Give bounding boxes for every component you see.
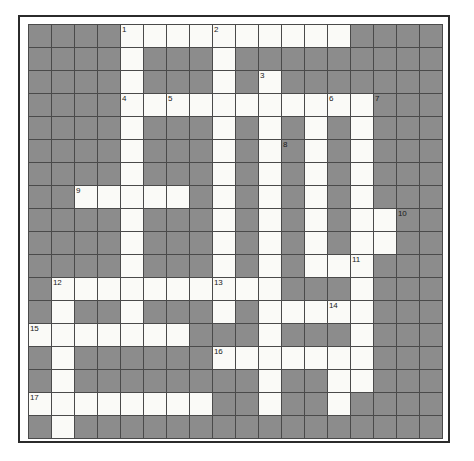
crossword-cell-open[interactable] [351,163,374,186]
crossword-cell-open[interactable] [305,232,328,255]
crossword-cell-open[interactable]: 2 [213,25,236,48]
crossword-cell-open[interactable] [213,163,236,186]
crossword-cell-open[interactable] [52,416,75,439]
crossword-cell-open[interactable] [305,140,328,163]
crossword-cell-open[interactable] [305,347,328,370]
crossword-cell-open[interactable] [98,324,121,347]
crossword-cell-open[interactable] [121,301,144,324]
crossword-cell-open[interactable] [259,232,282,255]
crossword-cell-open[interactable] [213,301,236,324]
crossword-cell-open[interactable] [144,393,167,416]
crossword-cell-open[interactable] [259,25,282,48]
crossword-cell-open[interactable] [121,140,144,163]
crossword-cell-open[interactable] [351,117,374,140]
crossword-cell-open[interactable] [144,186,167,209]
crossword-cell-open[interactable] [374,209,397,232]
crossword-cell-open[interactable]: 9 [75,186,98,209]
crossword-cell-open[interactable] [259,370,282,393]
crossword-cell-open[interactable] [305,163,328,186]
crossword-cell-open[interactable] [351,140,374,163]
crossword-cell-open[interactable] [259,163,282,186]
crossword-cell-open[interactable] [121,255,144,278]
crossword-cell-open[interactable] [305,25,328,48]
crossword-cell-open[interactable] [98,393,121,416]
crossword-cell-open[interactable] [259,209,282,232]
crossword-cell-open[interactable] [121,117,144,140]
crossword-cell-open[interactable]: 14 [328,301,351,324]
crossword-cell-open[interactable] [259,117,282,140]
crossword-cell-open[interactable] [144,94,167,117]
crossword-cell-open[interactable] [328,370,351,393]
crossword-cell-open[interactable] [351,186,374,209]
crossword-cell-open[interactable]: 11 [351,255,374,278]
crossword-cell-open[interactable] [305,94,328,117]
crossword-cell-open[interactable]: 16 [213,347,236,370]
crossword-cell-open[interactable] [213,232,236,255]
crossword-cell-open[interactable] [351,347,374,370]
crossword-cell-open[interactable] [121,71,144,94]
crossword-cell-open[interactable] [305,255,328,278]
crossword-cell-open[interactable] [98,186,121,209]
crossword-cell-open[interactable] [282,301,305,324]
crossword-cell-open[interactable] [259,255,282,278]
crossword-cell-open[interactable] [259,301,282,324]
crossword-cell-open[interactable]: 17 [29,393,52,416]
crossword-cell-open[interactable] [351,370,374,393]
crossword-cell-open[interactable] [328,25,351,48]
crossword-cell-open[interactable] [259,347,282,370]
crossword-cell-open[interactable] [167,278,190,301]
crossword-cell-open[interactable]: 13 [213,278,236,301]
crossword-cell-open[interactable] [121,393,144,416]
crossword-cell-open[interactable] [213,71,236,94]
crossword-cell-open[interactable] [52,370,75,393]
crossword-cell-open[interactable] [259,324,282,347]
crossword-cell-open[interactable] [167,393,190,416]
crossword-cell-open[interactable] [305,186,328,209]
crossword-cell-open[interactable] [190,94,213,117]
crossword-cell-open[interactable] [144,278,167,301]
crossword-cell-open[interactable] [351,94,374,117]
crossword-cell-open[interactable]: 12 [52,278,75,301]
crossword-cell-open[interactable] [213,48,236,71]
crossword-cell-open[interactable] [52,324,75,347]
crossword-cell-open[interactable] [351,232,374,255]
crossword-cell-open[interactable] [213,94,236,117]
crossword-cell-open[interactable] [190,278,213,301]
crossword-cell-open[interactable]: 6 [328,94,351,117]
crossword-cell-open[interactable] [121,186,144,209]
crossword-cell-open[interactable] [190,393,213,416]
crossword-cell-open[interactable] [213,255,236,278]
crossword-cell-open[interactable] [52,347,75,370]
crossword-cell-open[interactable] [144,324,167,347]
crossword-cell-open[interactable] [98,278,121,301]
crossword-cell-open[interactable] [52,393,75,416]
crossword-cell-open[interactable] [236,278,259,301]
crossword-cell-open[interactable]: 4 [121,94,144,117]
crossword-cell-open[interactable] [213,186,236,209]
crossword-cell-open[interactable] [121,324,144,347]
crossword-cell-open[interactable] [305,301,328,324]
crossword-cell-open[interactable] [328,347,351,370]
crossword-cell-open[interactable] [144,25,167,48]
crossword-cell-open[interactable] [213,140,236,163]
crossword-cell-open[interactable] [282,347,305,370]
crossword-cell-open[interactable] [75,324,98,347]
crossword-cell-open[interactable] [236,94,259,117]
crossword-cell-open[interactable] [190,25,213,48]
crossword-cell-open[interactable] [75,278,98,301]
crossword-cell-open[interactable] [282,25,305,48]
crossword-cell-open[interactable] [121,163,144,186]
crossword-cell-open[interactable] [167,324,190,347]
crossword-cell-open[interactable] [213,117,236,140]
crossword-cell-open[interactable] [213,209,236,232]
crossword-cell-open[interactable] [236,347,259,370]
crossword-grid[interactable]: 1234567891011121314151617 [28,24,443,439]
crossword-cell-open[interactable] [259,278,282,301]
crossword-cell-open[interactable] [75,393,98,416]
crossword-cell-open[interactable] [305,209,328,232]
crossword-cell-open[interactable] [259,94,282,117]
crossword-cell-open[interactable] [121,48,144,71]
crossword-cell-open[interactable] [374,232,397,255]
crossword-cell-open[interactable]: 15 [29,324,52,347]
crossword-cell-open[interactable] [351,209,374,232]
